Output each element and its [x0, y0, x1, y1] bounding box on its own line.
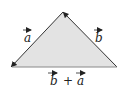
vector-triangle-diagram: a b b + a — [0, 0, 126, 91]
svg-text:a: a — [77, 74, 84, 88]
svg-text:+: + — [63, 74, 73, 88]
svg-text:b: b — [50, 74, 58, 88]
svg-text:a: a — [24, 31, 31, 45]
label-sum-base: b + a — [48, 73, 85, 88]
label-b-side: b — [94, 30, 103, 45]
label-a-side: a — [23, 30, 31, 45]
svg-text:b: b — [95, 31, 103, 45]
